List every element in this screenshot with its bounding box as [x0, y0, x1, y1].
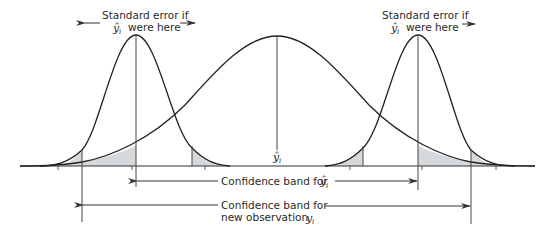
band-new-sub: i	[312, 218, 314, 226]
wide-left-tail-shade	[82, 146, 136, 166]
band-new-label-line2: new observation	[221, 211, 308, 223]
right-se-label-line2: were here	[406, 21, 459, 33]
axis-ticks	[58, 166, 496, 170]
band-yhat-sub: i	[326, 182, 328, 190]
right-narrow-curve	[325, 35, 515, 166]
band-new-label-line1: Confidence band for	[221, 199, 328, 211]
right-se-label-line1: Standard error if	[382, 9, 469, 21]
center-yhat-sub: i	[279, 157, 281, 165]
left-se-label-line1: Standard error if	[102, 9, 189, 21]
band-yhat-label: Confidence band for	[221, 175, 328, 187]
wide-right-tail-shade	[418, 146, 471, 166]
left-narrow-curve	[40, 35, 230, 166]
left-se-yhat-sub: i	[119, 28, 121, 36]
right-se-yhat-sub: i	[397, 28, 399, 36]
left-se-label-line2: were here	[128, 21, 181, 33]
confidence-band-diagram: Standard error if ŷ i were here Standard…	[0, 0, 545, 237]
